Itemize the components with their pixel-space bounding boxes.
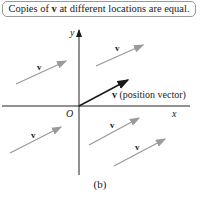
vector-copy-3 (10, 127, 61, 153)
vector-label-2: v (115, 43, 120, 53)
vector-label-5: v (135, 142, 140, 152)
origin-label: O (66, 108, 73, 119)
vector-label-3: v (31, 130, 36, 140)
position-vector-label: v (position vector) (112, 89, 186, 101)
vector-copy-2 (96, 45, 143, 66)
y-axis-label: y (69, 27, 75, 38)
x-axis-label: x (171, 108, 177, 119)
vector-diagram: y x O v v v (position vector) v v v (0, 0, 200, 200)
vector-copy-5 (114, 139, 165, 166)
subfigure-label: (b) (0, 178, 200, 190)
vector-label-4: v (110, 120, 115, 130)
vector-label-1: v (37, 62, 42, 72)
